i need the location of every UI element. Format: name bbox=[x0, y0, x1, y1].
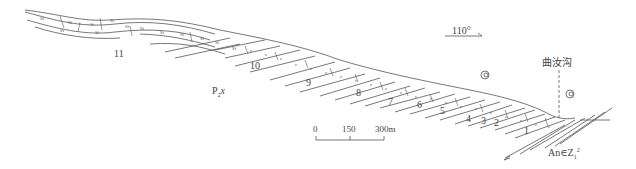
svg-text:Si: Si bbox=[40, 16, 45, 21]
svg-text:c: c bbox=[295, 62, 298, 67]
svg-text:c: c bbox=[265, 52, 268, 57]
layer-label-11: 11 bbox=[114, 49, 124, 59]
layer-label-9: 9 bbox=[306, 78, 311, 88]
svg-text:c: c bbox=[520, 118, 523, 123]
svg-text:Si: Si bbox=[90, 22, 95, 27]
formation-label: P2x bbox=[212, 86, 225, 98]
svg-text:Si: Si bbox=[60, 28, 65, 33]
ground-surface bbox=[25, 10, 575, 119]
layer-label-4: 4 bbox=[466, 114, 471, 124]
svg-text:c: c bbox=[370, 82, 373, 87]
scale-tick-300m: 300m bbox=[375, 125, 396, 134]
layer-label-3: 3 bbox=[481, 116, 486, 126]
cross-section-drawing: SiSiSi SiSiSi SiSiSi SiSiSi Si ccc ccc c… bbox=[0, 0, 636, 169]
svg-text:Si: Si bbox=[125, 24, 130, 29]
layer-label-5: 5 bbox=[440, 106, 445, 116]
svg-text:Si: Si bbox=[200, 36, 205, 41]
svg-text:Si: Si bbox=[180, 32, 185, 37]
svg-text:c: c bbox=[445, 100, 448, 105]
scale-tick-150: 150 bbox=[342, 125, 356, 134]
svg-text:Si: Si bbox=[95, 30, 100, 35]
svg-text:Si: Si bbox=[160, 30, 165, 35]
place-name-label: 曲汝沟 bbox=[542, 58, 572, 68]
svg-text:c: c bbox=[340, 74, 343, 79]
svg-text:Si: Si bbox=[215, 40, 220, 45]
svg-text:Si: Si bbox=[140, 26, 145, 31]
svg-text:c: c bbox=[490, 110, 493, 115]
layer-label-7: 7 bbox=[388, 97, 393, 107]
svg-text:c: c bbox=[280, 56, 283, 61]
svg-text:c: c bbox=[400, 90, 403, 95]
svg-text:Si: Si bbox=[110, 18, 115, 23]
layer-label-10: 10 bbox=[250, 61, 260, 71]
scale-tick-0: 0 bbox=[313, 125, 318, 134]
svg-text:Si: Si bbox=[68, 20, 73, 25]
orientation-label: 110° bbox=[452, 26, 471, 36]
layer-label-2: 2 bbox=[494, 118, 499, 128]
svg-text:c: c bbox=[548, 124, 551, 129]
layer-label-8: 8 bbox=[356, 88, 361, 98]
svg-text:c: c bbox=[385, 86, 388, 91]
layer-label-1: 1 bbox=[524, 126, 529, 136]
fossil-spiral-icon bbox=[481, 71, 489, 79]
basement-label: An∈Z12 bbox=[548, 147, 580, 160]
svg-text:Si: Si bbox=[232, 46, 237, 51]
fossil-spiral-icon bbox=[566, 90, 574, 98]
layer-label-6: 6 bbox=[417, 100, 422, 110]
scale-bar bbox=[316, 136, 384, 140]
